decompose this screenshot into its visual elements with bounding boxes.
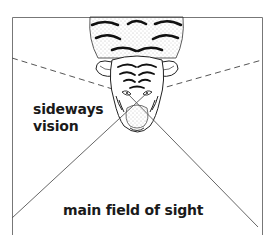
sideways-label-line2: vision [33, 119, 78, 133]
sideways-label-line1: sideways [33, 102, 103, 116]
main-field-label: main field of sight [63, 203, 203, 217]
vision-diagram: sideways vision main field of sight [0, 0, 270, 235]
tiger-illustration [90, 17, 184, 132]
